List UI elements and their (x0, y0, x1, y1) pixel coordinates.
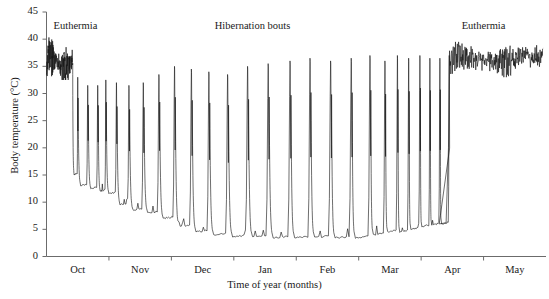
hibernation-temperature-figure: 051015202530354045 OctNovDecJanFebMarApr… (0, 0, 549, 299)
annotation-hibernation-bouts: Hibernation bouts (215, 20, 291, 31)
y-axis-ticks (43, 12, 47, 257)
x-axis-tick-label: Apr (428, 264, 476, 275)
y-axis-tick-label: 40 (12, 33, 38, 43)
x-axis-title: Time of year (months) (0, 279, 549, 290)
body-temperature-trace (47, 37, 543, 238)
x-axis-tick-label: Dec (179, 264, 227, 275)
x-axis-tick-label: Oct (54, 264, 102, 275)
y-axis-title: Body temperature (°C) (9, 56, 20, 196)
x-axis-tick-label: May (491, 264, 539, 275)
x-axis-ticks (109, 257, 484, 261)
annotation-euthermia-right: Euthermia (462, 20, 506, 31)
y-axis-tick-label: 45 (12, 6, 38, 16)
x-axis-tick-label: Feb (303, 264, 351, 275)
x-axis-tick-label: Mar (366, 264, 414, 275)
axes-group (43, 12, 547, 261)
x-axis-tick-label: Nov (116, 264, 164, 275)
y-axis-tick-label: 5 (12, 223, 38, 233)
y-axis-tick-label: 0 (12, 251, 38, 261)
chart-plot-area (0, 0, 549, 299)
annotation-euthermia-left: Euthermia (54, 20, 98, 31)
x-axis-tick-label: Jan (241, 264, 289, 275)
y-axis-tick-label: 10 (12, 196, 38, 206)
